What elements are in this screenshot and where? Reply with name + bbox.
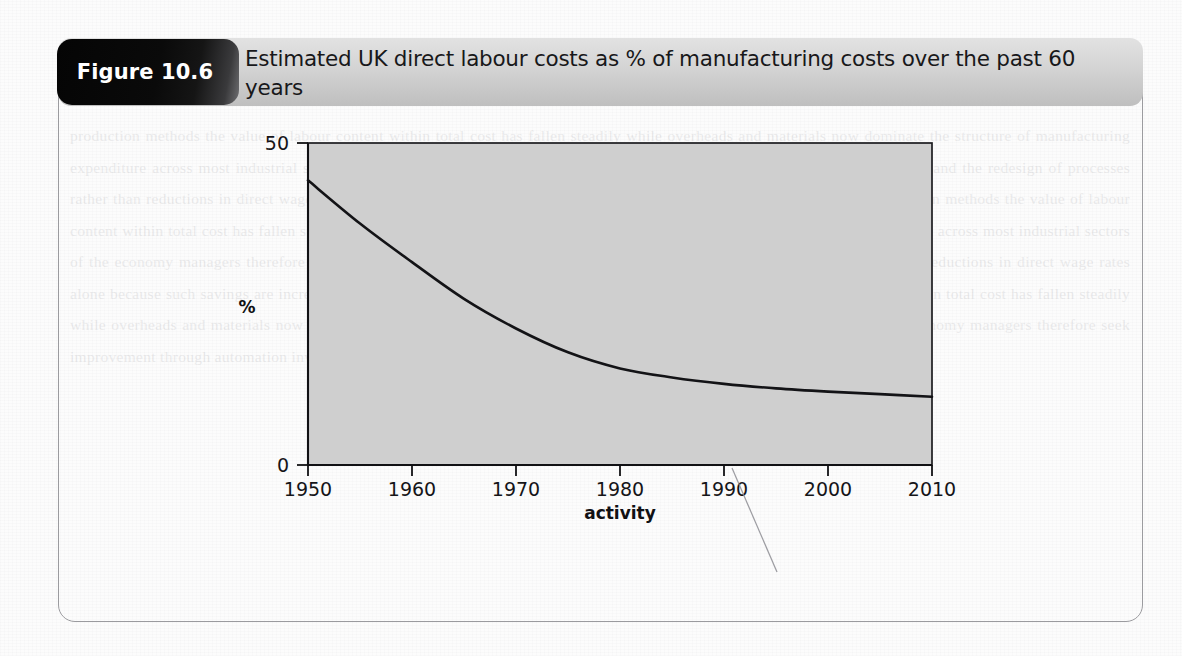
figure-container [58, 46, 1143, 622]
figure-title: Estimated UK direct labour costs as % of… [245, 45, 1080, 102]
figure-number-tab: Figure 10.6 [57, 39, 239, 105]
figure-number-label: Figure 10.6 [57, 39, 239, 105]
